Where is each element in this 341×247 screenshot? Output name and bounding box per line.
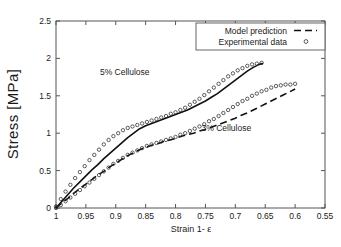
data-point xyxy=(270,86,273,89)
data-point xyxy=(279,84,282,87)
data-point xyxy=(241,66,244,69)
data-point xyxy=(217,82,220,85)
data-point xyxy=(226,108,229,111)
data-point xyxy=(183,106,186,109)
data-point xyxy=(198,97,201,100)
data-point xyxy=(174,135,177,138)
data-series-group xyxy=(54,61,297,210)
data-point xyxy=(88,158,91,161)
data-point xyxy=(236,102,239,105)
x-tick-label: 0.75 xyxy=(197,211,214,221)
data-point xyxy=(231,105,234,108)
x-tick-label: 0.95 xyxy=(78,211,95,221)
data-point xyxy=(164,138,167,141)
x-tick-label: 0.9 xyxy=(110,211,122,221)
data-point xyxy=(93,153,96,156)
data-point xyxy=(164,114,167,117)
data-point xyxy=(160,116,163,119)
data-point xyxy=(212,117,215,120)
data-point xyxy=(222,111,225,114)
y-axis-title: Stress [MPa] xyxy=(4,69,21,160)
series-annotation: 3% Cellulose xyxy=(202,123,252,133)
data-point xyxy=(78,170,81,173)
data-point xyxy=(188,129,191,132)
data-point xyxy=(73,176,76,179)
data-point xyxy=(193,100,196,103)
data-point xyxy=(193,127,196,130)
data-point xyxy=(260,90,263,93)
data-point xyxy=(236,69,239,72)
data-point xyxy=(255,92,258,95)
x-tick-label: 0.8 xyxy=(170,211,182,221)
data-point xyxy=(203,93,206,96)
data-point xyxy=(97,148,100,151)
data-point xyxy=(88,181,91,184)
data-point xyxy=(102,143,105,146)
data-point xyxy=(69,183,72,186)
data-point xyxy=(83,164,86,167)
model-prediction-line xyxy=(56,64,262,208)
model-prediction-line xyxy=(56,89,295,208)
data-point xyxy=(217,114,220,117)
data-point xyxy=(64,190,67,193)
data-point xyxy=(174,111,177,114)
data-point xyxy=(241,99,244,102)
data-point xyxy=(131,125,134,128)
x-axis-ticks: 10.950.90.850.80.750.70.650.60.55 xyxy=(54,21,334,221)
data-point xyxy=(246,97,249,100)
data-point xyxy=(59,197,62,200)
data-point xyxy=(145,120,148,123)
data-point xyxy=(250,63,253,66)
data-point xyxy=(136,123,139,126)
data-point xyxy=(293,82,296,85)
x-tick-label: 0.55 xyxy=(317,211,334,221)
data-point xyxy=(140,122,143,125)
y-tick-label: 0.5 xyxy=(39,166,51,176)
x-tick-label: 0.65 xyxy=(257,211,274,221)
data-point xyxy=(226,75,229,78)
data-point xyxy=(126,126,129,129)
data-point xyxy=(246,64,249,67)
chart-figure: 10.950.90.850.80.750.70.650.60.55 00.511… xyxy=(0,0,341,247)
y-tick-label: 2 xyxy=(46,53,51,63)
legend-label: Experimental data xyxy=(218,37,287,47)
data-point xyxy=(231,72,234,75)
data-point xyxy=(116,132,119,135)
data-point xyxy=(169,112,172,115)
data-point xyxy=(150,119,153,122)
data-point xyxy=(121,129,124,132)
data-point xyxy=(222,78,225,81)
data-point xyxy=(179,108,182,111)
data-point xyxy=(265,88,268,91)
legend-label: Model prediction xyxy=(225,26,288,36)
data-point xyxy=(207,90,210,93)
x-tick-label: 1 xyxy=(54,211,59,221)
series-annotation: 5% Cellulose xyxy=(100,67,150,77)
y-tick-label: 1 xyxy=(46,128,51,138)
data-point xyxy=(155,117,158,120)
x-tick-label: 0.7 xyxy=(229,211,241,221)
x-axis-title: Strain 1- ε xyxy=(171,224,212,234)
x-tick-label: 0.85 xyxy=(137,211,154,221)
stress-strain-plot: 10.950.90.850.80.750.70.650.60.55 00.511… xyxy=(0,0,341,247)
series-annotations: 5% Cellulose3% Cellulose xyxy=(100,67,252,133)
data-point xyxy=(274,84,277,87)
chart-legend: Model predictionExperimental data xyxy=(196,23,325,50)
data-point xyxy=(183,132,186,135)
data-point xyxy=(107,138,110,141)
data-point xyxy=(112,134,115,137)
y-tick-label: 2.5 xyxy=(39,16,51,26)
data-point xyxy=(188,103,191,106)
data-point xyxy=(97,173,100,176)
experimental-data-points xyxy=(54,82,297,210)
data-point xyxy=(212,86,215,89)
data-point xyxy=(284,83,287,86)
y-tick-label: 1.5 xyxy=(39,91,51,101)
data-point xyxy=(289,83,292,86)
x-tick-label: 0.6 xyxy=(289,211,301,221)
data-point xyxy=(250,94,253,97)
y-tick-label: 0 xyxy=(46,203,51,213)
